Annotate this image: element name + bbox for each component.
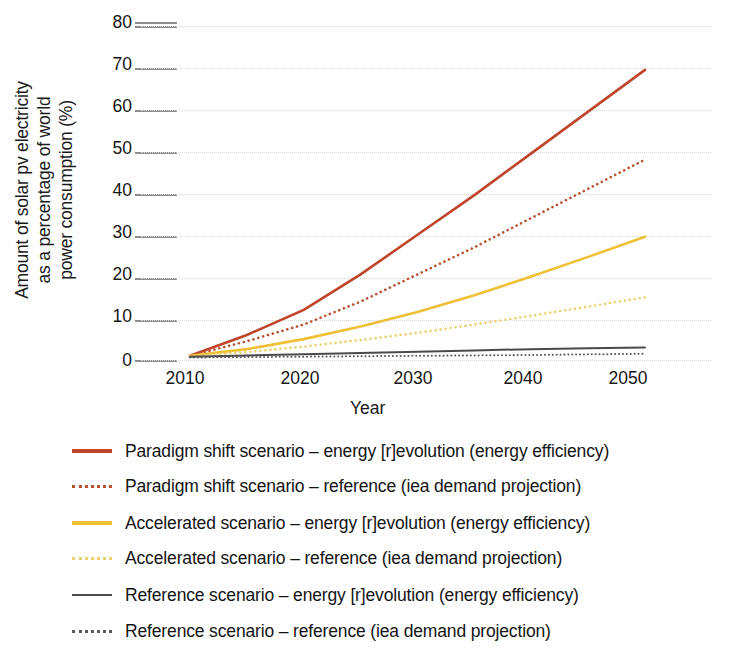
chart-legend: Paradigm shift scenario – energy [r]evol… — [0, 430, 734, 653]
legend-swatch-accelerated-reference — [72, 552, 112, 564]
legend-swatch-accelerated-revolution — [72, 517, 112, 529]
legend-label-paradigm-revolution: Paradigm shift scenario – energy [r]evol… — [125, 441, 609, 461]
series-lines — [0, 0, 734, 400]
legend-item-accelerated-revolution: Accelerated scenario – energy [r]evoluti… — [72, 510, 590, 536]
legend-swatch-paradigm-reference — [72, 480, 112, 492]
x-tick-2010: 2010 — [145, 368, 225, 389]
legend-item-paradigm-reference: Paradigm shift scenario – reference (iea… — [72, 473, 581, 499]
x-tick-2050: 2050 — [588, 368, 668, 389]
x-axis-title: Year — [350, 398, 385, 419]
legend-label-accelerated-reference: Accelerated scenario – reference (iea de… — [125, 548, 562, 568]
plot-area: Amount of solar pv electricity as a perc… — [0, 0, 734, 430]
legend-swatch-reference-revolution — [72, 589, 112, 601]
series-line-1 — [190, 160, 645, 356]
legend-label-accelerated-revolution: Accelerated scenario – energy [r]evoluti… — [125, 513, 590, 533]
x-tick-2020: 2020 — [260, 368, 340, 389]
legend-label-reference-reference: Reference scenario – reference (iea dema… — [125, 621, 551, 641]
x-tick-2030: 2030 — [373, 368, 453, 389]
legend-label-paradigm-reference: Paradigm shift scenario – reference (iea… — [125, 476, 581, 496]
legend-item-reference-revolution: Reference scenario – energy [r]evolution… — [72, 582, 579, 608]
chart-figure: Amount of solar pv electricity as a perc… — [0, 0, 734, 653]
legend-swatch-paradigm-revolution — [72, 445, 112, 457]
legend-swatch-reference-reference — [72, 625, 112, 637]
legend-item-reference-reference: Reference scenario – reference (iea dema… — [72, 618, 551, 644]
legend-label-reference-revolution: Reference scenario – energy [r]evolution… — [125, 585, 579, 605]
x-tick-2040: 2040 — [483, 368, 563, 389]
legend-item-accelerated-reference: Accelerated scenario – reference (iea de… — [72, 545, 562, 571]
legend-item-paradigm-revolution: Paradigm shift scenario – energy [r]evol… — [72, 438, 609, 464]
